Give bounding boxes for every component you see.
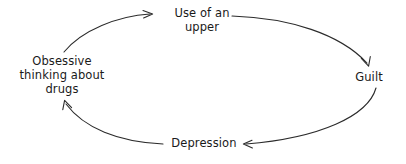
node-obsessive-thinking-line-3: drugs — [2, 82, 122, 96]
node-obsessive-thinking-line-2: thinking about — [2, 68, 122, 82]
node-depression-line-1: Depression — [152, 136, 256, 150]
node-obsessive-thinking-about-drugs: Obsessive thinking about drugs — [2, 54, 122, 96]
node-use-of-an-upper: Use of an upper — [147, 6, 257, 34]
edge-depression-to-obsessive-path — [66, 104, 163, 144]
node-guilt: Guilt — [336, 70, 402, 84]
cycle-diagram: Use of an upper Guilt Depression Obsessi… — [0, 0, 406, 164]
edge-obsessive-to-upper-path — [64, 14, 150, 52]
edge-guilt-to-depression-path — [246, 88, 376, 144]
node-obsessive-thinking-line-1: Obsessive — [2, 54, 122, 68]
node-use-of-an-upper-line-2: upper — [147, 20, 257, 34]
node-use-of-an-upper-line-1: Use of an — [147, 6, 257, 20]
node-guilt-line-1: Guilt — [336, 70, 402, 84]
node-depression: Depression — [152, 136, 256, 150]
